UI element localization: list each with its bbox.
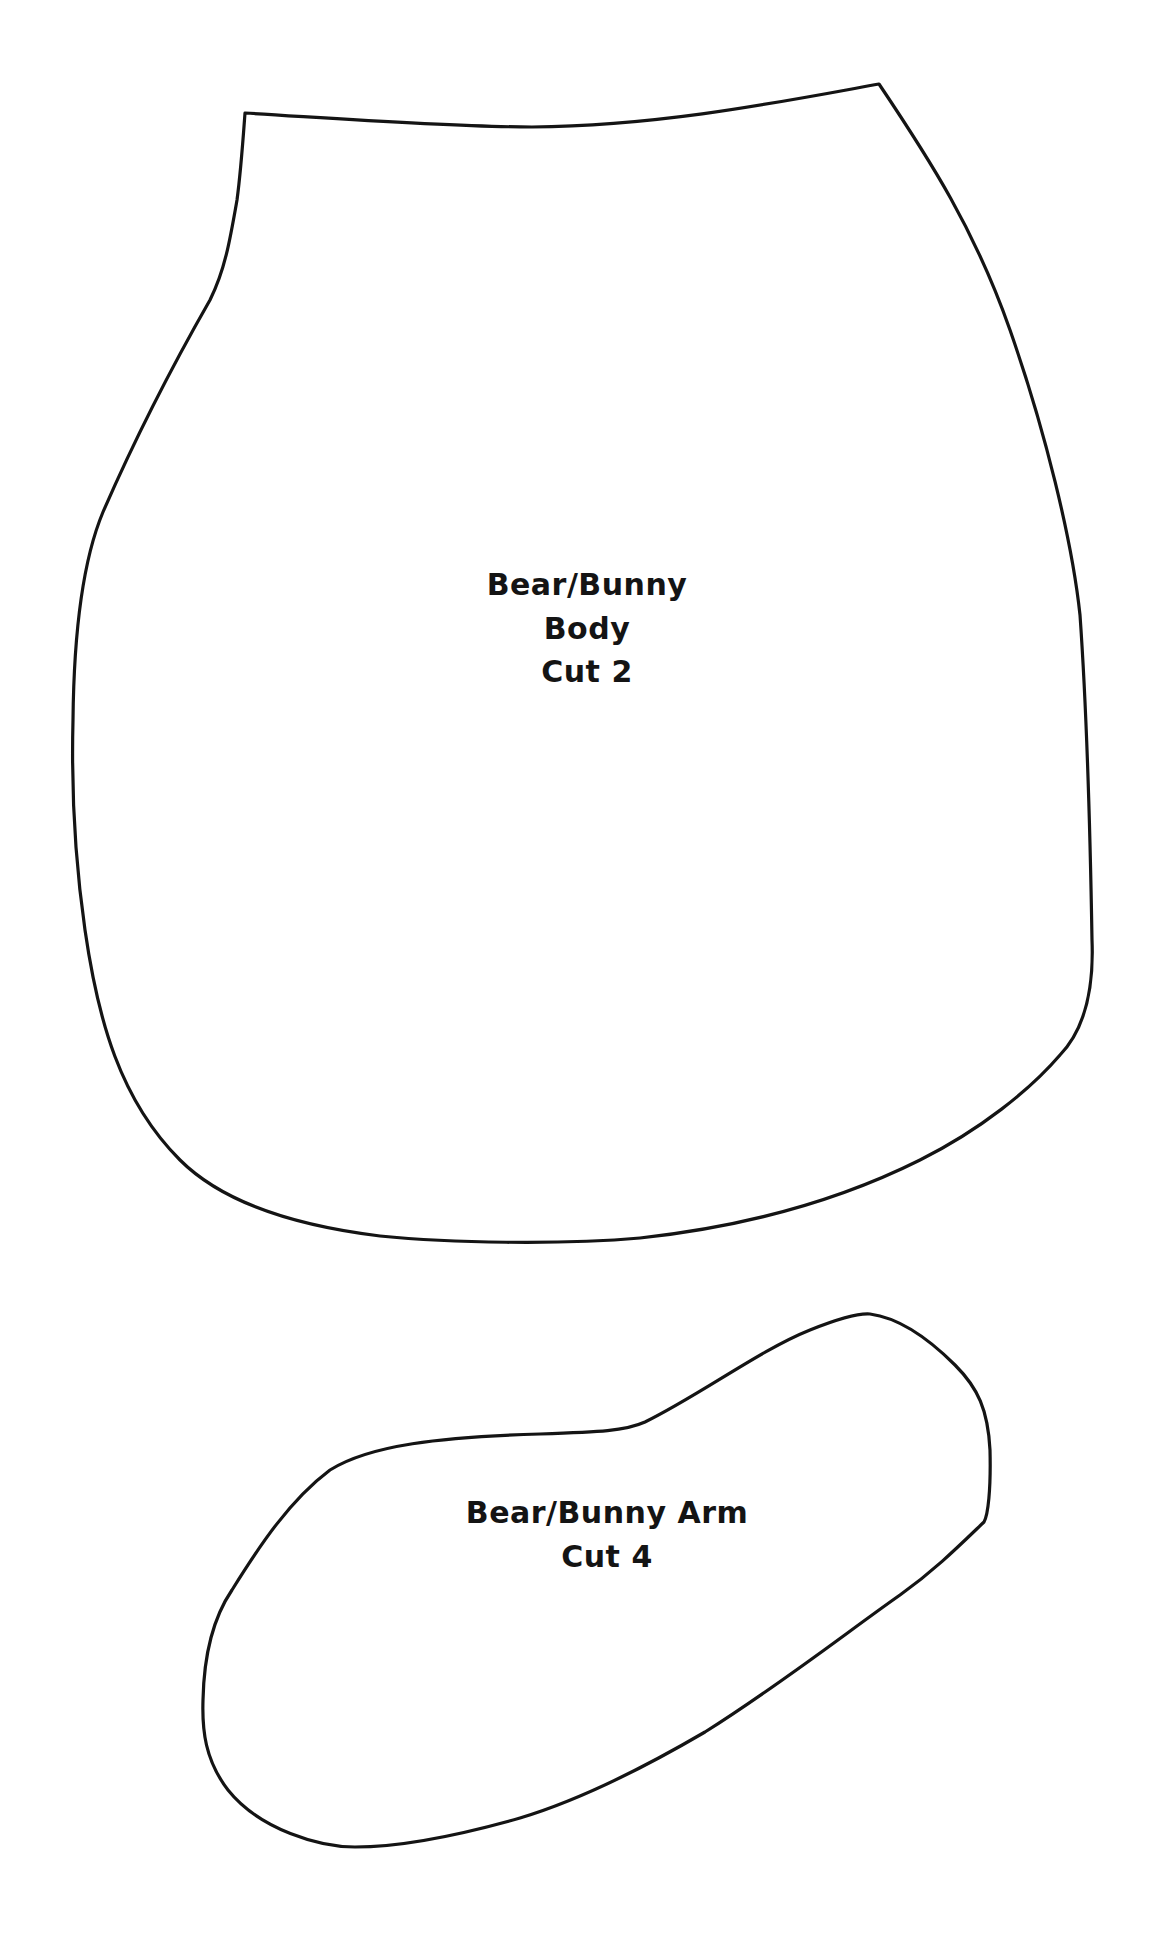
arm-piece-outline xyxy=(203,1314,990,1847)
arm-piece-label: Bear/Bunny Arm Cut 4 xyxy=(407,1491,807,1578)
arm-piece-cut-count: Cut 4 xyxy=(407,1535,807,1579)
arm-piece-title: Bear/Bunny Arm xyxy=(407,1491,807,1535)
body-piece-cut-count: Cut 2 xyxy=(437,650,737,694)
body-piece-name: Body xyxy=(437,607,737,651)
body-piece-label: Bear/Bunny Body Cut 2 xyxy=(437,563,737,694)
pattern-sheet xyxy=(0,0,1151,1944)
body-piece-title: Bear/Bunny xyxy=(437,563,737,607)
